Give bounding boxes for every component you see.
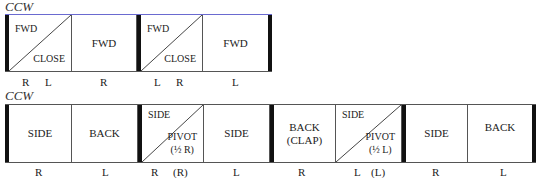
cell-side-1: SIDE <box>5 105 72 162</box>
cell-top-left-label: SIDE <box>148 109 170 120</box>
pivot-label: PIVOT <box>168 130 197 143</box>
cell-side-pivot-3: SIDE PIVOT (½ R) <box>138 105 204 162</box>
cell-back-8: BACK <box>468 105 536 162</box>
foot-label: R <box>35 166 42 178</box>
cell-back-clap-5: BACK (CLAP) <box>270 105 336 162</box>
foot-label: R <box>298 166 305 178</box>
foot-label: (L) <box>371 166 385 178</box>
foot-label: L <box>154 76 161 88</box>
cell-side-4: SIDE <box>204 105 270 162</box>
foot-label: (R) <box>173 166 188 178</box>
cell-bottom-right-label: CLOSE <box>164 52 196 65</box>
cell-label: BACK <box>485 121 516 134</box>
cell-bottom-right-label: PIVOT (½ L) <box>366 130 395 156</box>
foot-label: L <box>45 76 52 88</box>
cell-label: SIDE <box>424 127 448 140</box>
cell-bottom-right-label: CLOSE <box>33 52 65 65</box>
cell-side-pivot-6: SIDE PIVOT (½ L) <box>336 105 402 162</box>
cell-fwd-4: FWD <box>203 15 272 71</box>
cell-fwd-2: FWD <box>72 15 137 71</box>
foot-label: R <box>151 166 158 178</box>
cell-fwd-close-1: FWD CLOSE <box>5 15 72 71</box>
foot-label: L <box>354 166 361 178</box>
foot-label: R <box>100 76 107 88</box>
figure-1-step-row: FWD CLOSE FWD FWD CLOSE FWD <box>5 14 272 72</box>
pivot-amount: (½ R) <box>168 143 197 156</box>
cell-label: FWD <box>223 37 247 50</box>
figure-1-title: CCW <box>5 0 33 15</box>
cell-sublabel: (CLAP) <box>287 134 322 147</box>
foot-label: R <box>22 76 29 88</box>
cell-side-7: SIDE <box>402 105 468 162</box>
cell-bottom-right-label: PIVOT (½ R) <box>168 130 197 156</box>
pivot-label: PIVOT <box>366 130 395 143</box>
cell-top-left-label: SIDE <box>342 109 364 120</box>
foot-label: L <box>232 76 239 88</box>
cell-label: SIDE <box>28 127 52 140</box>
cell-label: FWD <box>92 37 116 50</box>
pivot-amount: (½ L) <box>366 143 395 156</box>
cell-label: BACK <box>289 121 320 134</box>
cell-top-left-label: FWD <box>15 23 37 34</box>
cell-fwd-close-3: FWD CLOSE <box>137 15 203 71</box>
foot-label: R <box>432 166 439 178</box>
foot-label: L <box>500 166 507 178</box>
foot-label: L <box>233 166 240 178</box>
foot-label: R <box>176 76 183 88</box>
cell-label: BACK <box>89 127 120 140</box>
cell-label: SIDE <box>224 127 248 140</box>
foot-label: L <box>102 166 109 178</box>
figure-2-step-row: SIDE BACK SIDE PIVOT (½ R) SIDE BACK (CL… <box>5 104 536 163</box>
cell-back-2: BACK <box>72 105 138 162</box>
figure-2-title: CCW <box>5 88 33 104</box>
cell-top-left-label: FWD <box>147 23 169 34</box>
